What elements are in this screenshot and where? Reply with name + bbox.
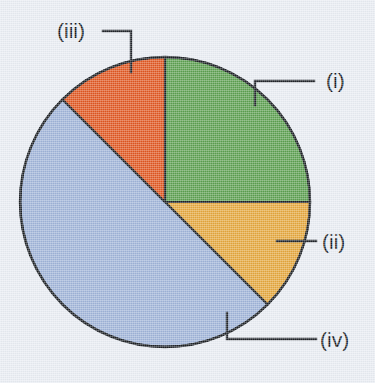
pie-chart-svg: (iii) (i) (ii) (iv) [0, 0, 375, 383]
callout-label-ii: (ii) [322, 230, 345, 253]
callout-label-iii: (iii) [57, 19, 85, 42]
callout-label-i: (i) [326, 69, 345, 92]
pie-chart-figure: (iii) (i) (ii) (iv) [0, 0, 375, 383]
callout-label-iv: (iv) [320, 328, 349, 351]
